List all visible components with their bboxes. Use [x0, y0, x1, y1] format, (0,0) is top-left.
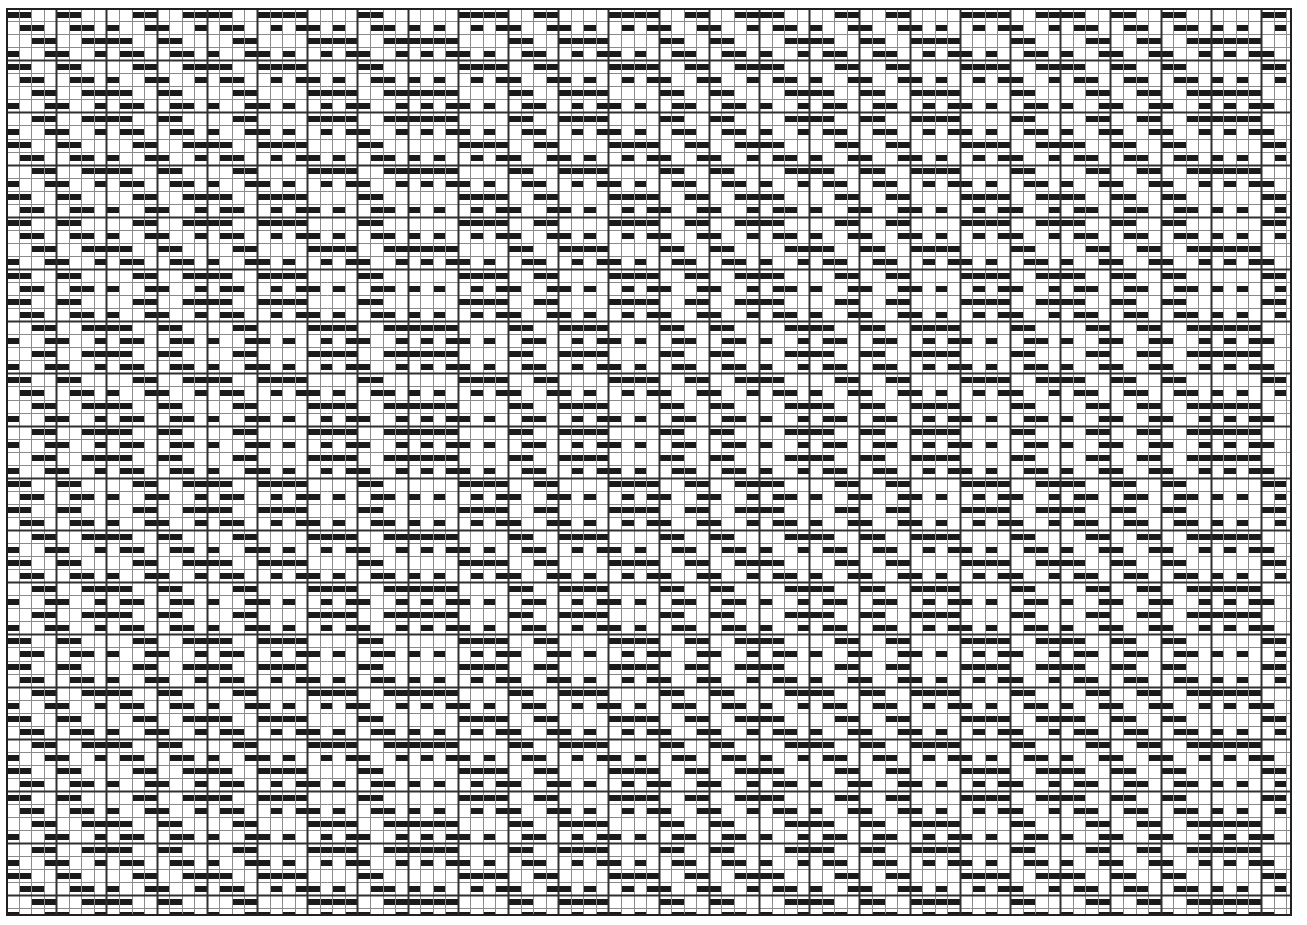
drawdown-grid: [6, 8, 1292, 916]
drawdown-page: [0, 0, 1307, 925]
drawdown-canvas: [6, 8, 1292, 916]
